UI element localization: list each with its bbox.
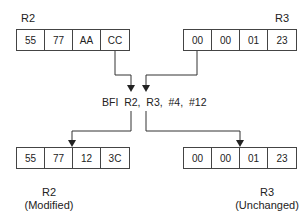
register-byte: 23 <box>268 148 296 168</box>
register-byte: 00 <box>212 148 240 168</box>
register-byte: 77 <box>45 148 73 168</box>
bottom-r3-label: R3 <box>232 186 302 199</box>
bottom-r2-note: (Modified) <box>24 199 74 212</box>
register-byte: 00 <box>184 148 212 168</box>
register-byte: 01 <box>240 148 268 168</box>
bottom-r2-caption: R2 (Modified) <box>24 186 74 212</box>
bottom-r2-register: 55 77 12 3C <box>16 147 130 169</box>
register-byte: 55 <box>17 148 45 168</box>
register-byte: 3C <box>101 148 129 168</box>
bottom-r3-caption: R3 (Unchanged) <box>232 186 302 212</box>
bottom-r3-note: (Unchanged) <box>232 199 302 212</box>
bottom-r2-label: R2 <box>24 186 74 199</box>
register-byte: 12 <box>73 148 101 168</box>
bfi-instruction: BFI R2, R3, #4, #12 <box>102 96 206 108</box>
bottom-r3-register: 00 00 01 23 <box>183 147 297 169</box>
